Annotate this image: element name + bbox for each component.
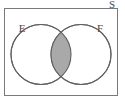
- universal-set-label: S: [109, 0, 115, 10]
- set-label-right: F: [97, 22, 103, 34]
- venn-diagram-canvas: S E F: [0, 0, 125, 104]
- venn-diagram-figure: S E F: [0, 0, 125, 104]
- set-label-left: E: [19, 22, 26, 34]
